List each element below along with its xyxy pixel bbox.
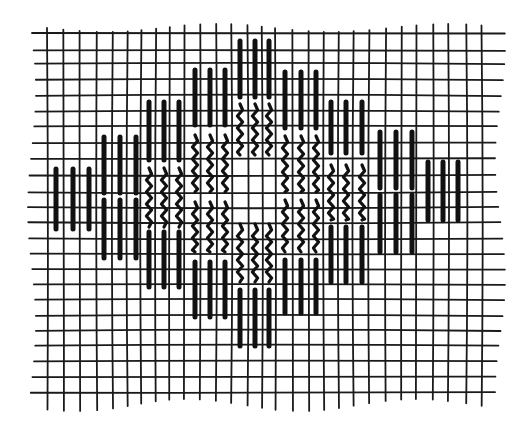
grid-vertical-line [292, 30, 293, 411]
grid-vertical-line [96, 32, 97, 410]
grid-vertical-line [308, 31, 309, 411]
grid-vertical-line [433, 24, 434, 399]
grid-vertical-line [416, 25, 417, 399]
grid-vertical-line [275, 28, 276, 409]
bargello-stitch-diagram [0, 0, 531, 431]
grid-vertical-line [385, 28, 386, 401]
grid-vertical-line [80, 31, 81, 411]
grid-vertical-line [47, 28, 48, 409]
grid-vertical-line [200, 24, 201, 399]
grid-vertical-line [184, 26, 185, 399]
grid-horizontal-line [29, 238, 502, 239]
grid-vertical-line [169, 27, 170, 400]
grid-horizontal-line [34, 361, 497, 362]
grid-vertical-line [323, 32, 324, 410]
grid-vertical-line [401, 27, 402, 400]
grid-vertical-line [63, 30, 64, 411]
grid-horizontal-line [34, 126, 497, 127]
grid-horizontal-line [35, 111, 498, 112]
grid-vertical-line [155, 29, 156, 402]
